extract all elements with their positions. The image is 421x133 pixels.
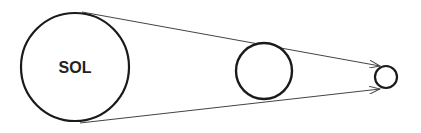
arrow-bottom bbox=[80, 89, 380, 123]
diagram-canvas: SOL bbox=[0, 0, 421, 133]
sun-label: SOL bbox=[59, 59, 92, 76]
middle-body-circle bbox=[236, 43, 292, 99]
diagram-svg: SOL bbox=[0, 0, 421, 133]
small-body-circle bbox=[375, 66, 397, 88]
